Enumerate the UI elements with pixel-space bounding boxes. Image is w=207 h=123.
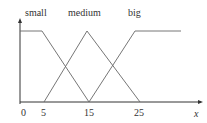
tick-15: 15 bbox=[84, 107, 94, 118]
curve-big bbox=[89, 31, 181, 102]
x-axis-label: x bbox=[193, 108, 199, 119]
fuzzy-membership-chart: small medium big 0 5 15 25 x bbox=[0, 0, 207, 123]
label-small: small bbox=[25, 7, 47, 18]
label-medium: medium bbox=[68, 7, 101, 18]
label-big: big bbox=[128, 7, 141, 18]
x-axis-arrow-icon bbox=[198, 100, 203, 104]
tick-0: 0 bbox=[21, 107, 26, 118]
tick-5: 5 bbox=[41, 107, 46, 118]
tick-25: 25 bbox=[134, 107, 144, 118]
curve-small bbox=[20, 31, 89, 102]
y-axis-arrow-icon bbox=[18, 18, 22, 23]
curve-medium bbox=[44, 31, 140, 102]
